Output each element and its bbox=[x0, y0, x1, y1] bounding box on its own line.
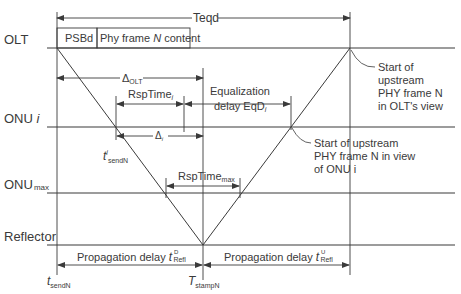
svg-text:Start of upstream: Start of upstream bbox=[314, 137, 398, 149]
timing-diagram: OLT ONU i ONUmax Reflector Teqd PSBd Phy… bbox=[0, 0, 461, 294]
svg-text:Start of: Start of bbox=[378, 61, 414, 73]
row-label-reflector: Reflector bbox=[4, 229, 57, 244]
svg-text:in OLT's view: in OLT's view bbox=[378, 100, 443, 112]
eq-delay-label-line2: delay EqDi bbox=[214, 100, 267, 113]
psbd-label: PSBd bbox=[65, 32, 93, 44]
frame-content-label: Phy frame N content bbox=[100, 32, 200, 44]
row-label-onu-max: ONUmax bbox=[4, 177, 49, 192]
eq-delay-label-line1: Equalization bbox=[210, 85, 270, 97]
svg-text:of ONU i: of ONU i bbox=[314, 163, 356, 175]
svg-text:upstream: upstream bbox=[378, 74, 424, 86]
olt-view-annotation: Start of upstream PHY frame N in OLT's v… bbox=[378, 61, 443, 112]
svg-text:PHY frame N: PHY frame N bbox=[378, 87, 443, 99]
t-send-prime-label: tisendN bbox=[103, 149, 128, 164]
delta-olt-label: ΔOLT bbox=[122, 72, 143, 85]
leader-lines bbox=[292, 50, 375, 143]
row-label-onu-i: ONU i bbox=[4, 111, 41, 126]
vertical-lines bbox=[57, 12, 350, 280]
svg-text:PHY frame N in view: PHY frame N in view bbox=[314, 150, 415, 162]
row-label-olt: OLT bbox=[4, 32, 28, 47]
rsptime-max-label: RspTimemax bbox=[178, 170, 235, 183]
rsptime-i-label: RspTimei bbox=[128, 88, 174, 101]
onu-view-leader bbox=[292, 128, 311, 143]
t-send-label: tsendN bbox=[47, 274, 71, 289]
prop-down-label: Propagation delay tDRefl bbox=[77, 249, 186, 264]
delta-i-label: Δi bbox=[155, 130, 164, 142]
onu-view-annotation: Start of upstream PHY frame N in view of… bbox=[314, 137, 415, 175]
prop-up-label: Propagation delay tURefl bbox=[224, 249, 333, 264]
interval-arrows bbox=[57, 18, 350, 265]
teqd-label: Teqd bbox=[193, 11, 219, 25]
olt-view-leader bbox=[351, 50, 375, 67]
t-stamp-label: TstampN bbox=[188, 274, 219, 290]
